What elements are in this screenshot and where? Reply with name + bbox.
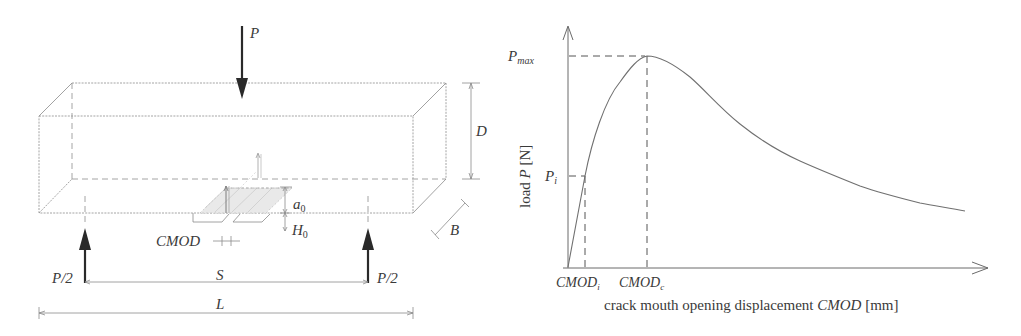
pmax-label: Pmax [507,48,534,66]
depth-label: D [475,123,487,139]
cmodc-label: CMODc [619,275,664,292]
x-axis-title: crack mouth opening displacement CMOD [m… [604,297,899,313]
load-label: P [249,25,259,41]
length-dimension [39,307,413,319]
reaction-right-arrow-icon [362,228,374,283]
span-dimension [85,280,368,284]
load-cmod-curve [568,56,965,267]
reaction-right-label: P/2 [376,270,398,286]
width-label: B [450,222,459,238]
holder-height-label: H0 [291,222,308,240]
cmod-label: CMOD [156,233,200,249]
load-cmod-chart: Pmax Pi CMODi CMODc crack mouth opening … [507,26,988,313]
load-arrow-icon [236,26,248,99]
reaction-left-arrow-icon [79,228,91,283]
y-axis-title: load P [N] [517,145,533,208]
reaction-left-label: P/2 [51,270,73,286]
beam-depth-edge-tr [413,83,446,116]
length-label: L [215,296,224,312]
beam-depth-edge-tl [39,83,72,116]
beam-schematic: a0 H0 CMOD P P/2 P/2 [39,25,487,319]
cmod-indicator [213,236,240,246]
notch-detail [193,153,292,222]
figure-canvas: a0 H0 CMOD P P/2 P/2 [0,0,1021,336]
beam-depth-edge-bl [39,179,72,213]
notch-depth-label: a0 [293,196,306,214]
pi-label: Pi [544,168,557,186]
beam-depth-edge-br [413,179,446,213]
cmodi-label: CMODi [556,275,600,292]
span-label: S [216,267,224,283]
